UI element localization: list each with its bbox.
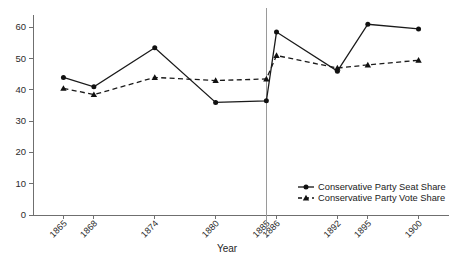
x-axis-ticks: 186518681874188018851886189218951900	[48, 215, 424, 240]
line-chart: 0102030405060 18651868187418801885188618…	[0, 0, 455, 266]
y-tick-label: 30	[15, 115, 26, 126]
x-tick-label: 1895	[352, 218, 373, 239]
data-point-marker	[274, 30, 279, 35]
data-point-marker	[60, 85, 66, 91]
series-2	[60, 52, 422, 97]
data-point-marker	[264, 98, 269, 103]
y-tick-label: 60	[15, 21, 26, 32]
x-tick-label: 1892	[322, 218, 343, 239]
y-tick-label: 20	[15, 146, 26, 157]
data-point-marker	[273, 52, 279, 58]
data-point-marker	[304, 185, 309, 190]
data-point-marker	[365, 22, 370, 27]
series-layer	[60, 22, 422, 105]
x-tick-label: 1874	[139, 218, 160, 239]
data-point-marker	[152, 45, 157, 50]
y-axis-ticks: 0102030405060	[15, 21, 33, 220]
y-tick-label: 50	[15, 53, 26, 64]
legend-item-label: Conservative Party Seat Share	[318, 182, 446, 192]
data-point-marker	[416, 26, 421, 31]
x-tick-label: 1900	[403, 218, 424, 239]
x-tick-label: 1868	[78, 218, 99, 239]
x-axis-title: Year	[217, 243, 238, 254]
chart-legend: Conservative Party Seat ShareConservativ…	[298, 182, 446, 203]
data-point-marker	[91, 84, 96, 89]
y-tick-label: 0	[21, 209, 26, 220]
y-tick-label: 10	[15, 178, 26, 189]
x-tick-label: 1865	[48, 218, 69, 239]
data-point-marker	[61, 75, 66, 80]
legend-item-label: Conservative Party Vote Share	[318, 193, 445, 203]
x-tick-label: 1880	[200, 218, 221, 239]
data-point-marker	[213, 100, 218, 105]
chart-container: 0102030405060 18651868187418801885188618…	[0, 0, 455, 266]
y-tick-label: 40	[15, 84, 26, 95]
